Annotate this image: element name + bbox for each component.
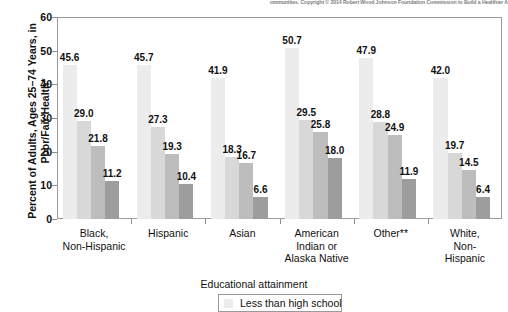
legend-title: Educational attainment — [0, 278, 508, 290]
y-axis-tick-label: 30 — [24, 112, 52, 124]
copyright-note: ommunities. Copyright © 2014 Robert Wood… — [246, 0, 508, 7]
y-axis-tick-mark — [52, 84, 57, 85]
legend-box: Less than high school — [218, 294, 342, 312]
x-axis-group-separator — [354, 219, 355, 224]
x-axis-group-label: Asian — [229, 227, 255, 240]
x-axis-group-label: American Indian or Alaska Native — [284, 227, 348, 265]
y-axis-tick-label: 20 — [24, 146, 52, 158]
y-axis-tick-mark — [52, 152, 57, 153]
y-axis-tick-mark — [52, 219, 57, 220]
x-axis-group-separator — [131, 219, 132, 224]
y-axis-tick-mark — [52, 185, 57, 186]
x-axis-group-separator — [205, 219, 206, 224]
y-axis-tick-label: 60 — [24, 11, 52, 23]
x-axis-group-label: Other** — [374, 227, 408, 240]
y-axis-tick-mark — [52, 118, 57, 119]
y-axis-tick-label: 50 — [24, 45, 52, 57]
x-axis-group-label: White, Non-Hispanic — [443, 227, 486, 265]
y-axis-tick-label: 0 — [24, 213, 52, 225]
y-axis-tick-mark — [52, 17, 57, 18]
x-axis-group-label: Hispanic — [148, 227, 188, 240]
x-axis-group-separator — [428, 219, 429, 224]
plot-area — [57, 17, 502, 219]
x-axis-group-label: Black, Non-Hispanic — [63, 227, 126, 252]
y-axis-tick-label: 10 — [24, 179, 52, 191]
x-axis-group-separator — [280, 219, 281, 224]
legend-label-less-than-high-school: Less than high school — [240, 297, 342, 309]
y-axis-tick-mark — [52, 51, 57, 52]
y-axis-tick-label: 40 — [24, 78, 52, 90]
legend-swatch-less-than-high-school — [224, 299, 233, 308]
